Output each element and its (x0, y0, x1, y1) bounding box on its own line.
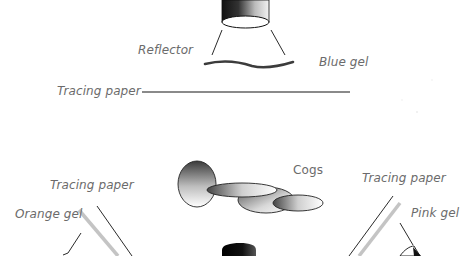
pink-gel-label: Pink gel (411, 206, 459, 220)
blue-gel-shape (205, 61, 293, 67)
bottom-lamp-icon (222, 243, 256, 256)
orange-gel-label: Orange gel (15, 207, 83, 221)
background-speckles (401, 79, 433, 113)
left-tracing-paper-label: Tracing paper (50, 178, 134, 192)
reflector-beam-lines (212, 30, 285, 55)
right-tracing-paper-label: Tracing paper (362, 171, 446, 185)
top-tracing-paper-label: Tracing paper (57, 84, 141, 98)
cogs-label: Cogs (293, 163, 323, 177)
blue-gel-label: Blue gel (319, 55, 369, 69)
reflector-label: Reflector (138, 43, 193, 57)
lighting-diagram: Reflector Blue gel Tracing paper Cogs Tr… (0, 0, 461, 256)
top-lamp-icon (222, 0, 269, 28)
right-tracing-paper-assembly (349, 196, 421, 256)
